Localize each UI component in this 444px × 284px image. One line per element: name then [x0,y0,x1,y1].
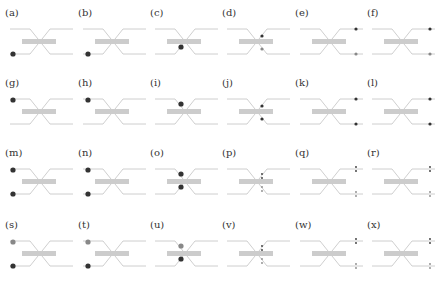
coupler-diagram [5,148,77,218]
panel-t: (t) [78,220,150,284]
particle-dot [428,97,431,100]
coupler-diagram [222,220,294,284]
panel-p: (p) [222,148,294,218]
coupler-diagram [78,78,150,148]
coupler-diagram [222,78,294,148]
coupler-diagram [150,8,222,78]
coupler-bar [95,109,129,114]
panel-o: (o) [150,148,222,218]
particle-dot [178,184,183,189]
particle-dot [10,191,15,196]
particle-dot [429,238,431,240]
coupler-bar [384,179,418,184]
panel-h: (h) [78,78,150,148]
coupler-diagram [367,220,439,284]
coupler-bar [22,251,56,256]
coupler-diagram [295,8,367,78]
coupler-bar [167,179,201,184]
coupler-bar [312,179,346,184]
particle-dot [261,258,263,260]
coupler-bar [95,39,129,44]
particle-dot [261,186,263,188]
panel-f: (f) [367,8,439,78]
coupler-diagram [78,220,150,284]
panel-k: (k) [295,78,367,148]
panel-a: (a) [5,8,77,78]
coupler-bar [239,179,273,184]
coupler-bar [239,39,273,44]
coupler-bar [22,109,56,114]
coupler-bar [384,39,418,44]
coupler-diagram [150,148,222,218]
particle-dot [429,191,431,193]
particle-dot [355,263,357,265]
particle-dot [355,267,357,269]
particle-dot [261,173,263,175]
particle-dot [10,239,15,244]
particle-dot [429,263,431,265]
panel-j: (j) [222,78,294,148]
particle-dot [355,195,357,197]
panel-b: (b) [78,8,150,78]
particle-dot [260,104,263,107]
panel-w: (w) [295,220,367,284]
panel-g: (g) [5,78,77,148]
coupler-bar [22,179,56,184]
coupler-bar [384,109,418,114]
panel-d: (d) [222,8,294,78]
panel-v: (v) [222,220,294,284]
particle-dot [261,262,263,264]
panel-r: (r) [367,148,439,218]
particle-dot [178,171,183,176]
particle-dot [428,122,431,125]
particle-dot [261,190,263,192]
coupler-bar [167,251,201,256]
coupler-diagram [367,78,439,148]
particle-dot [178,256,183,261]
panel-s: (s) [5,220,77,284]
coupler-bar [312,251,346,256]
particle-dot [355,191,357,193]
particle-dot [85,263,90,268]
particle-dot [10,167,15,172]
particle-dot [85,97,90,102]
panel-n: (n) [78,148,150,218]
particle-dot [178,44,183,49]
panel-i: (i) [150,78,222,148]
panel-m: (m) [5,148,77,218]
coupler-diagram [150,78,222,148]
particle-dot [261,177,263,179]
coupler-bar [95,179,129,184]
particle-dot [85,191,90,196]
particle-dot [355,166,357,168]
particle-dot [260,34,263,37]
particle-dot [10,97,15,102]
coupler-diagram [78,148,150,218]
coupler-diagram [367,148,439,218]
coupler-diagram [5,78,77,148]
coupler-diagram [5,8,77,78]
coupler-bar [167,39,201,44]
coupler-diagram [367,8,439,78]
panel-u: (u) [150,220,222,284]
particle-dot [355,238,357,240]
particle-dot [354,27,357,30]
coupler-diagram [295,148,367,218]
coupler-bar [167,109,201,114]
coupler-diagram [222,8,294,78]
particle-dot [85,167,90,172]
particle-dot [355,170,357,172]
particle-dot [429,170,431,172]
particle-dot [429,242,431,244]
coupler-bar [239,251,273,256]
panel-e: (e) [295,8,367,78]
coupler-diagram [222,148,294,218]
particle-dot [85,239,90,244]
panel-q: (q) [295,148,367,218]
particle-dot [260,117,263,120]
particle-dot [428,52,431,55]
coupler-bar [312,39,346,44]
particle-dot [178,243,183,248]
coupler-bar [312,109,346,114]
particle-dot [429,195,431,197]
